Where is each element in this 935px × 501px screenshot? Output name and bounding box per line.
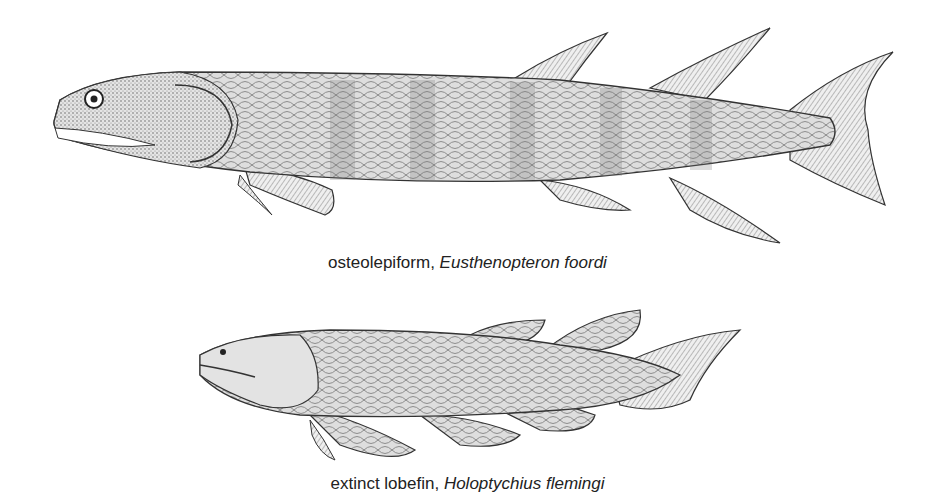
caption-common-name: osteolepiform,	[328, 253, 435, 272]
caption-scientific-name: Holoptychius flemingi	[444, 474, 605, 493]
caption-holoptychius: extinct lobefin, Holoptychius flemingi	[0, 474, 935, 494]
eusthenopteron-drawing	[0, 0, 935, 250]
holoptychius-drawing	[0, 295, 935, 470]
holoptychius-illustration	[0, 295, 935, 470]
caption-scientific-name: Eusthenopteron foordi	[440, 253, 607, 272]
caption-common-name: extinct lobefin,	[330, 474, 439, 493]
caption-eusthenopteron: osteolepiform, Eusthenopteron foordi	[0, 253, 935, 273]
eusthenopteron-illustration	[0, 0, 935, 250]
